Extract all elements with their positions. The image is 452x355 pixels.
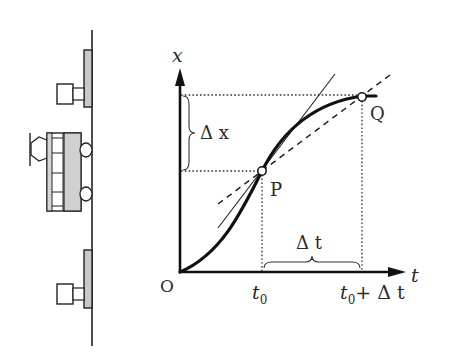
train-wheel-rear [80, 187, 92, 201]
point-q [358, 93, 366, 101]
train-roof-panel [64, 133, 81, 211]
lower-station-box [57, 284, 73, 304]
pantograph-arm [31, 137, 47, 161]
delta-x-brace [183, 96, 195, 170]
point-p-label: P [270, 179, 282, 200]
y-axis-arrow-icon [175, 68, 185, 86]
graph: x t O P Q Δ x Δ t t0 t0+ Δ t [160, 44, 419, 307]
train-illustration [30, 30, 92, 346]
train [30, 133, 92, 211]
tangent-line [218, 74, 335, 228]
delta-x-label: Δ x [200, 122, 229, 143]
point-q-label: Q [370, 103, 385, 124]
t0-label: t0 [252, 281, 267, 307]
point-p [258, 167, 266, 175]
upper-platform [84, 50, 92, 107]
y-axis-label: x [172, 44, 183, 66]
upper-station-connector [73, 88, 84, 100]
delta-t-brace [264, 256, 360, 268]
train-edge-stripe [47, 133, 52, 211]
t0-plus-delta-t-label: t0+ Δ t [340, 281, 405, 307]
delta-t-label: Δ t [296, 232, 323, 253]
t-axis-arrow-icon [388, 267, 406, 277]
origin-label: O [160, 276, 174, 296]
lower-station-connector [73, 288, 84, 300]
t-axis-label: t [411, 264, 419, 286]
diagram-canvas: x t O P Q Δ x Δ t t0 t0+ Δ t [0, 0, 452, 355]
lower-platform [84, 250, 92, 308]
upper-station-box [57, 84, 73, 104]
train-wheel-front [80, 143, 92, 157]
